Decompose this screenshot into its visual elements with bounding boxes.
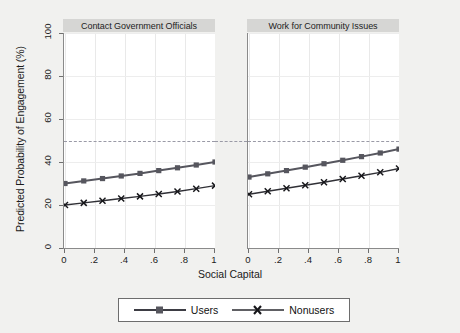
x-tick-label: .6: [328, 254, 348, 265]
x-tick-mark: [94, 249, 95, 253]
y-tick-label: 100: [42, 21, 53, 43]
x-tick-label: .8: [174, 254, 194, 265]
y-axis-title: Predicted Probability of Engagement (%): [14, 28, 28, 250]
data-point-square: [359, 154, 364, 159]
data-point-square: [119, 173, 124, 178]
legend-label-users: Users: [191, 304, 218, 316]
x-tick-mark: [338, 249, 339, 253]
x-tick-label: .4: [114, 254, 134, 265]
data-point-square: [63, 181, 68, 186]
reference-line-gap: [215, 141, 247, 142]
gridline-horizontal: [64, 248, 215, 249]
panel-title-1: Contact Government Officials: [63, 19, 215, 32]
x-tick-mark: [308, 249, 309, 253]
legend-item-users: Users: [134, 304, 218, 316]
x-tick-mark: [368, 249, 369, 253]
x-tick-mark: [214, 249, 215, 253]
y-tick-label: 40: [42, 150, 53, 172]
x-tick-label: 1: [204, 254, 224, 265]
y-tick-label: 60: [42, 107, 53, 129]
x-tick-mark: [278, 249, 279, 253]
data-point-square: [378, 150, 383, 155]
data-point-square: [100, 176, 105, 181]
data-point-square: [303, 165, 308, 170]
data-point-square: [156, 168, 161, 173]
chart-canvas: Predicted Probability of Engagement (%) …: [0, 0, 460, 333]
x-tick-mark: [64, 249, 65, 253]
x-tick-mark: [398, 249, 399, 253]
data-point-square: [247, 174, 252, 179]
x-tick-label: .6: [144, 254, 164, 265]
legend-marker-square-icon: [134, 304, 186, 316]
y-tick-label: 80: [42, 64, 53, 86]
panel-title-2: Work for Community Issues: [247, 19, 399, 32]
data-point-square: [265, 171, 270, 176]
data-point-square: [137, 171, 142, 176]
data-point-square: [321, 161, 326, 166]
x-tick-mark: [124, 249, 125, 253]
plot-area-2: [247, 33, 399, 249]
x-tick-mark: [184, 249, 185, 253]
series-line-nonusers: [65, 186, 215, 205]
x-tick-label: .4: [298, 254, 318, 265]
chart-legend: Users Nonusers: [118, 298, 350, 322]
x-tick-label: .2: [84, 254, 104, 265]
series-layer: [64, 33, 215, 249]
legend-marker-x-icon: [232, 304, 284, 316]
y-tick-label: 20: [42, 193, 53, 215]
data-point-square: [340, 158, 345, 163]
x-tick-mark: [248, 249, 249, 253]
x-tick-label: 1: [388, 254, 408, 265]
gridline-horizontal: [248, 248, 399, 249]
x-tick-label: .2: [268, 254, 288, 265]
series-layer: [248, 33, 399, 249]
data-point-square: [175, 165, 180, 170]
data-point-square: [194, 162, 199, 167]
x-tick-mark: [154, 249, 155, 253]
x-tick-label: .8: [358, 254, 378, 265]
legend-label-nonusers: Nonusers: [289, 304, 334, 316]
y-tick-label: 0: [42, 236, 53, 258]
x-tick-label: 0: [54, 254, 74, 265]
plot-area-1: [63, 33, 215, 249]
legend-item-nonusers: Nonusers: [232, 304, 334, 316]
data-point-square: [284, 168, 289, 173]
data-point-square: [212, 159, 215, 164]
x-axis-title: Social Capital: [0, 268, 460, 280]
data-point-square: [81, 178, 86, 183]
data-point-square: [396, 147, 399, 152]
x-tick-label: 0: [238, 254, 258, 265]
